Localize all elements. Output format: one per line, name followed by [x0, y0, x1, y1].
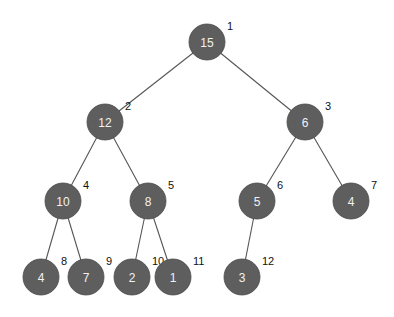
- node-index-label: 11: [193, 255, 204, 267]
- tree-node: 104: [45, 179, 89, 219]
- node-value: 1: [170, 271, 177, 285]
- tree-nodes: 151122631048556474879210111312: [23, 20, 377, 295]
- node-index-label: 1: [227, 20, 233, 32]
- tree-node: 48: [23, 255, 67, 295]
- tree-node: 122: [87, 100, 131, 140]
- tree-node: 79: [68, 255, 112, 295]
- tree-edges: [41, 42, 351, 277]
- node-index-label: 3: [325, 100, 331, 112]
- tree-node: 56: [239, 179, 283, 219]
- node-index-label: 4: [83, 179, 89, 191]
- node-index-label: 2: [125, 100, 131, 112]
- node-index-label: 8: [61, 255, 67, 267]
- tree-node: 47: [333, 179, 377, 219]
- node-index-label: 12: [262, 255, 274, 267]
- node-value: 8: [145, 195, 152, 209]
- heap-tree-diagram: 151122631048556474879210111312: [0, 0, 394, 317]
- node-value: 15: [200, 36, 214, 50]
- node-value: 4: [348, 195, 355, 209]
- node-value: 4: [38, 271, 45, 285]
- node-index-label: 9: [106, 255, 112, 267]
- node-value: 5: [254, 195, 261, 209]
- node-value: 2: [129, 271, 136, 285]
- tree-edge: [207, 42, 305, 122]
- node-value: 3: [239, 271, 246, 285]
- node-value: 7: [83, 271, 90, 285]
- tree-node: 63: [287, 100, 331, 140]
- tree-node: 151: [189, 20, 233, 60]
- node-index-label: 5: [168, 179, 174, 191]
- node-index-label: 6: [277, 179, 283, 191]
- node-value: 10: [56, 195, 70, 209]
- node-index-label: 7: [371, 179, 377, 191]
- tree-edge: [105, 42, 207, 122]
- node-value: 12: [98, 116, 112, 130]
- tree-node: 312: [224, 255, 274, 295]
- tree-node: 85: [130, 179, 174, 219]
- node-value: 6: [302, 116, 309, 130]
